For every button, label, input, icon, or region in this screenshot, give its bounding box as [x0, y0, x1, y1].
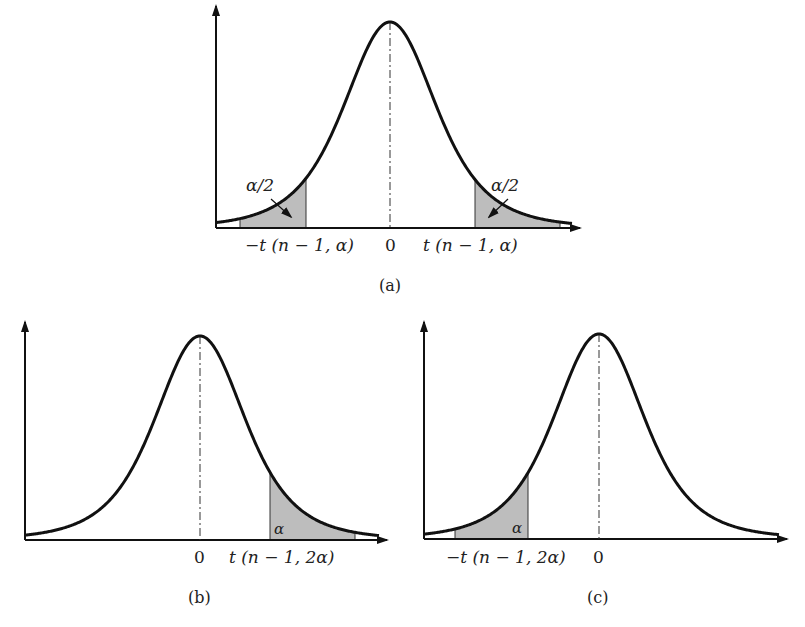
- tick-pos-t-b: t (n − 1, 2α): [229, 547, 334, 567]
- tail-label-left-a: α/2: [246, 175, 274, 195]
- tail-label-b: α: [274, 520, 284, 538]
- density-curve: [424, 334, 779, 535]
- tick-neg-t-c: −t (n − 1, 2α): [446, 547, 566, 567]
- panel-b: [25, 322, 387, 540]
- tick-neg-t-a: −t (n − 1, α): [245, 235, 354, 255]
- tail-label-c: α: [512, 519, 522, 537]
- t-distribution-figure: α/2 α/2 −t (n − 1, α) 0 t (n − 1, α) (a)…: [0, 0, 805, 627]
- tick-zero-a: 0: [385, 235, 396, 255]
- tick-zero-c: 0: [593, 547, 604, 567]
- caption-b: (b): [188, 588, 211, 607]
- tick-zero-b: 0: [194, 547, 205, 567]
- tail-label-right-a: α/2: [491, 175, 519, 195]
- density-curve: [25, 336, 379, 536]
- caption-a: (a): [379, 276, 401, 295]
- tick-pos-t-a: t (n − 1, α): [423, 235, 518, 255]
- caption-c: (c): [587, 588, 608, 607]
- panel-c: [424, 322, 787, 539]
